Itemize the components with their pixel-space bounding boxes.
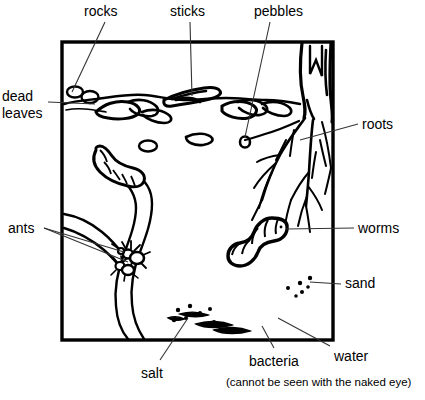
- label-salt: salt: [141, 366, 163, 381]
- label-roots: roots: [362, 117, 393, 132]
- label-water: water: [334, 349, 368, 364]
- label-sand: sand: [345, 276, 375, 291]
- label-rocks: rocks: [84, 4, 117, 19]
- soil-frame-border: [62, 42, 333, 340]
- label-naked-eye-note: (cannot be seen with the naked eye): [226, 375, 411, 390]
- label-sticks: sticks: [170, 4, 205, 19]
- soil-diagram-page: rocks sticks pebbles dead leaves roots a…: [0, 0, 425, 400]
- soil-cross-section-illustration: [0, 0, 425, 400]
- label-pebbles: pebbles: [254, 4, 303, 19]
- label-worms: worms: [358, 221, 399, 236]
- label-bacteria: bacteria: [249, 354, 299, 369]
- label-dead-leaves-line1: dead: [2, 88, 33, 104]
- label-dead-leaves-line2: leaves: [2, 105, 42, 121]
- label-ants: ants: [8, 221, 34, 236]
